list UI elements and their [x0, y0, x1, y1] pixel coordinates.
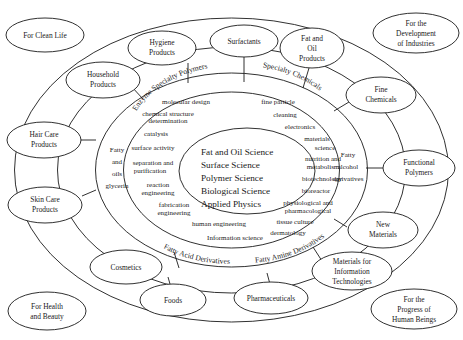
- term: human engineering: [192, 220, 246, 228]
- core-line: Applied Physics: [201, 199, 261, 209]
- core-line: Polymer Science: [201, 173, 263, 183]
- node-for-clean-life[interactable]: For Clean Life: [6, 18, 84, 52]
- core-line: Surface Science: [201, 160, 260, 170]
- node-label-line: Hygiene: [149, 38, 175, 47]
- term: physiological and: [283, 199, 333, 207]
- node-label-line: Products: [90, 80, 116, 89]
- node-label-line: For Health: [31, 302, 63, 311]
- node-skin-care-products[interactable]: Skin Care Products: [8, 187, 82, 223]
- concentric-science-product-diagram: Enzyme Specialty Polymers Specialty Chem…: [0, 0, 463, 340]
- term: science: [315, 144, 336, 152]
- node-materials-for-information-technologies[interactable]: Materials for Information Technologies: [312, 252, 392, 290]
- node-label-line: Products: [299, 54, 325, 63]
- term: fabrication: [159, 201, 190, 209]
- term: separation and: [133, 159, 174, 167]
- node-label-line: and Beauty: [30, 312, 64, 321]
- node-for-health-and-beauty[interactable]: For Health and Beauty: [8, 292, 86, 330]
- term: metabolism: [307, 163, 340, 171]
- node-cosmetics[interactable]: Cosmetics: [90, 250, 162, 284]
- side-label-line: glycerin: [106, 182, 129, 190]
- term: purification: [134, 167, 167, 175]
- side-label-line: and: [112, 158, 123, 166]
- term: catalysis: [144, 130, 168, 138]
- side-label-line: Fatty: [341, 151, 356, 159]
- node-label-line: New: [376, 220, 391, 229]
- term: materials: [304, 135, 330, 143]
- node-label-line: For Clean Life: [23, 31, 67, 40]
- node-label-line: Materials for: [333, 257, 372, 266]
- node-label-line: Functional: [403, 158, 435, 167]
- diagram-canvas: Enzyme Specialty Polymers Specialty Chem…: [0, 0, 463, 340]
- term: engineering: [157, 209, 191, 217]
- node-label-line: For the: [403, 295, 425, 304]
- node-label-line: Pharmaceuticals: [247, 294, 296, 303]
- node-hair-care-products[interactable]: Hair Care Products: [7, 122, 81, 158]
- term: biotechnology: [302, 175, 343, 183]
- node-label-line: Fine: [374, 85, 388, 94]
- term: dermatology: [270, 229, 306, 237]
- term: engineering: [141, 189, 175, 197]
- term: determination: [149, 117, 188, 125]
- core-line: Biological Science: [201, 186, 270, 196]
- node-label-line: Foods: [164, 296, 182, 305]
- node-label-line: Surfactants: [227, 37, 260, 46]
- node-label-line: For the: [405, 19, 427, 28]
- node-for-the-progress-of-human-beings[interactable]: For the Progress of Human Beings: [371, 289, 457, 329]
- node-functional-polymers[interactable]: Functional Polymers: [383, 150, 455, 186]
- term: surface activity: [132, 144, 175, 152]
- node-label-line: Household: [87, 70, 119, 79]
- node-label-line: Information: [334, 267, 370, 276]
- term: Information science: [207, 234, 263, 242]
- node-ellipse[interactable]: [8, 292, 86, 330]
- term: fine particle: [261, 98, 295, 106]
- node-label-line: of Industries: [397, 39, 434, 48]
- node-fat-and-oil-products[interactable]: Fat and Oil Products: [280, 28, 344, 68]
- term: tissue culture: [276, 218, 313, 226]
- side-label-line: alcohol: [338, 163, 359, 171]
- core-line: Fat and Oil Science: [201, 147, 273, 157]
- node-label-line: Chemicals: [365, 95, 396, 104]
- node-label-line: Fat and: [301, 34, 323, 43]
- node-label-line: Hair Care: [30, 130, 60, 139]
- node-label-line: Development: [396, 29, 437, 38]
- node-label-line: Materials: [369, 230, 397, 239]
- node-label-line: Cosmetics: [111, 263, 142, 272]
- node-surfactants[interactable]: Surfactants: [210, 25, 278, 57]
- side-label-line: oils: [112, 170, 122, 178]
- node-label-line: Products: [32, 205, 58, 214]
- term: pharmacological: [285, 207, 332, 215]
- term: reaction: [147, 181, 170, 189]
- node-label-line: Products: [31, 140, 57, 149]
- term: molecular design: [162, 98, 211, 106]
- node-for-the-development-of-industries[interactable]: For the Development of Industries: [373, 13, 459, 53]
- node-label-line: Skin Care: [30, 195, 60, 204]
- node-fine-chemicals[interactable]: Fine Chemicals: [346, 77, 416, 113]
- node-household-products[interactable]: Household Products: [66, 62, 140, 98]
- node-label-line: Polymers: [405, 168, 433, 177]
- node-pharmaceuticals[interactable]: Pharmaceuticals: [234, 282, 308, 314]
- term: cleaning: [273, 111, 297, 119]
- term: nutrition and: [305, 155, 341, 163]
- side-label-line: Fatty: [110, 146, 125, 154]
- node-new-materials[interactable]: New Materials: [348, 212, 418, 248]
- node-label-line: Technologies: [332, 277, 371, 286]
- term: electronics: [285, 123, 316, 131]
- node-label-line: Products: [149, 48, 175, 57]
- node-hygiene-products[interactable]: Hygiene Products: [128, 31, 196, 65]
- node-label-line: Progress of: [397, 305, 431, 314]
- node-label-line: Oil: [307, 44, 316, 53]
- node-label-line: Human Beings: [392, 315, 436, 324]
- node-foods[interactable]: Foods: [140, 284, 206, 316]
- term: bioreactor: [302, 187, 331, 195]
